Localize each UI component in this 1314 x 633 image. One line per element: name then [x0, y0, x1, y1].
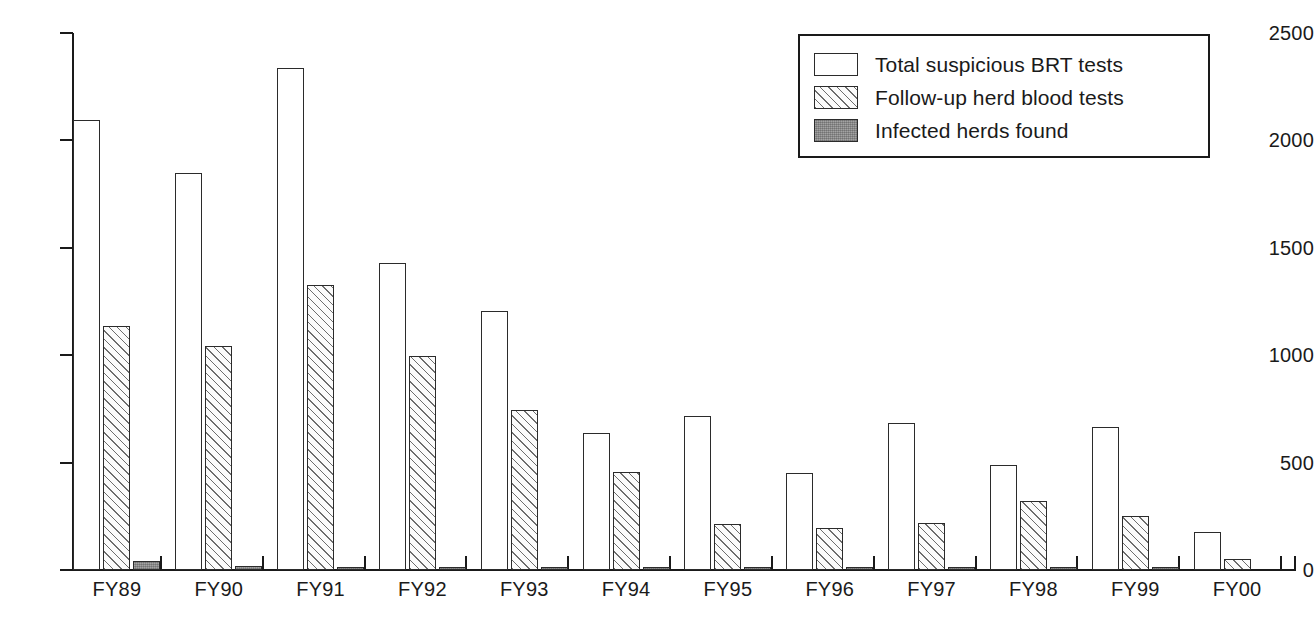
legend-item-total: Total suspicious BRT tests — [814, 48, 1208, 81]
hatched-swatch-icon — [814, 86, 858, 109]
bar-fy97-series1 — [888, 423, 915, 570]
bar-fy96-series2 — [816, 528, 843, 570]
bar-fy00-series1 — [1194, 532, 1221, 570]
bar-fy95-series3 — [744, 567, 771, 570]
bar-fy98-series3 — [1050, 567, 1077, 570]
white-swatch-icon — [814, 53, 858, 76]
bar-fy98-series1 — [990, 465, 1017, 570]
legend-label-total: Total suspicious BRT tests — [875, 53, 1123, 77]
bar-fy93-series1 — [481, 311, 508, 570]
bar-fy97-series2 — [918, 523, 945, 570]
chart-legend: Total suspicious BRT tests Follow-up her… — [798, 34, 1210, 158]
bar-fy89-series2 — [103, 326, 130, 570]
bar-fy96-series1 — [786, 473, 813, 570]
bar-chart: 05001000150020002500 FY89FY90FY91FY92FY9… — [0, 0, 1314, 633]
bar-fy90-series2 — [205, 346, 232, 570]
bar-fy92-series3 — [439, 567, 466, 570]
bar-fy94-series3 — [643, 567, 670, 570]
x-axis-label-fy94: FY94 — [602, 578, 651, 601]
legend-item-infected: Infected herds found — [814, 114, 1208, 147]
bar-fy97-series3 — [948, 567, 975, 570]
legend-item-followup: Follow-up herd blood tests — [814, 81, 1208, 114]
bar-fy89-series1 — [73, 120, 100, 570]
bar-fy89-series3 — [133, 561, 160, 570]
legend-label-followup: Follow-up herd blood tests — [875, 86, 1124, 110]
x-axis-label-fy95: FY95 — [704, 578, 753, 601]
bar-fy95-series2 — [714, 524, 741, 570]
bar-fy92-series1 — [379, 263, 406, 570]
bar-fy95-series1 — [684, 416, 711, 570]
bar-fy90-series1 — [175, 173, 202, 570]
bar-fy94-series2 — [613, 472, 640, 570]
bar-fy91-series1 — [277, 68, 304, 570]
bar-fy99-series2 — [1122, 516, 1149, 570]
x-axis-label-fy98: FY98 — [1009, 578, 1058, 601]
bar-fy96-series3 — [846, 567, 873, 570]
x-axis-label-fy89: FY89 — [93, 578, 142, 601]
bar-fy94-series1 — [583, 433, 610, 570]
legend-label-infected: Infected herds found — [875, 119, 1068, 143]
bar-fy90-series3 — [235, 566, 262, 570]
x-axis-label-fy92: FY92 — [398, 578, 447, 601]
x-axis-label-fy93: FY93 — [500, 578, 549, 601]
x-axis-label-fy97: FY97 — [907, 578, 956, 601]
x-axis-label-fy99: FY99 — [1111, 578, 1160, 601]
gray-swatch-icon — [814, 119, 858, 142]
bar-fy93-series2 — [511, 410, 538, 570]
x-axis-label-fy00: FY00 — [1213, 578, 1262, 601]
x-axis-label-fy90: FY90 — [194, 578, 243, 601]
bar-fy92-series2 — [409, 356, 436, 570]
bar-fy99-series3 — [1152, 567, 1179, 570]
bar-fy91-series2 — [307, 285, 334, 570]
bar-fy91-series3 — [337, 567, 364, 570]
bar-fy99-series1 — [1092, 427, 1119, 570]
x-axis-label-fy91: FY91 — [296, 578, 345, 601]
bar-fy98-series2 — [1020, 501, 1047, 570]
bar-fy00-series2 — [1224, 559, 1251, 570]
x-axis-label-fy96: FY96 — [805, 578, 854, 601]
bar-fy93-series3 — [541, 567, 568, 570]
